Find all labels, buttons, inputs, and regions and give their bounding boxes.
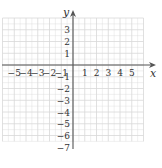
x-tick-label: 4 — [117, 68, 123, 78]
y-tick-label: 3 — [64, 25, 70, 35]
y-tick-label: −5 — [57, 119, 71, 129]
y-axis-label: y — [62, 6, 70, 19]
y-tick-label: −4 — [57, 108, 71, 118]
x-tick-label: 1 — [82, 68, 88, 78]
y-tick-label: 2 — [64, 37, 70, 47]
x-tick-label: 2 — [94, 68, 100, 78]
y-tick-label: −6 — [57, 131, 71, 141]
x-tick-label: 5 — [129, 68, 135, 78]
x-tick-label: 3 — [105, 68, 111, 78]
y-tick-label: −7 — [57, 143, 71, 153]
y-tick-labels: 321−1−2−3−4−5−6−7 — [57, 25, 71, 153]
x-axis-label: x — [150, 67, 157, 80]
y-tick-label: 1 — [64, 49, 70, 59]
coordinate-grid: −5−4−3−2−112345 321−1−2−3−4−5−6−7 x y — [0, 0, 162, 168]
y-tick-label: −1 — [57, 72, 70, 82]
y-tick-label: −3 — [57, 96, 71, 106]
y-tick-label: −2 — [57, 84, 70, 94]
